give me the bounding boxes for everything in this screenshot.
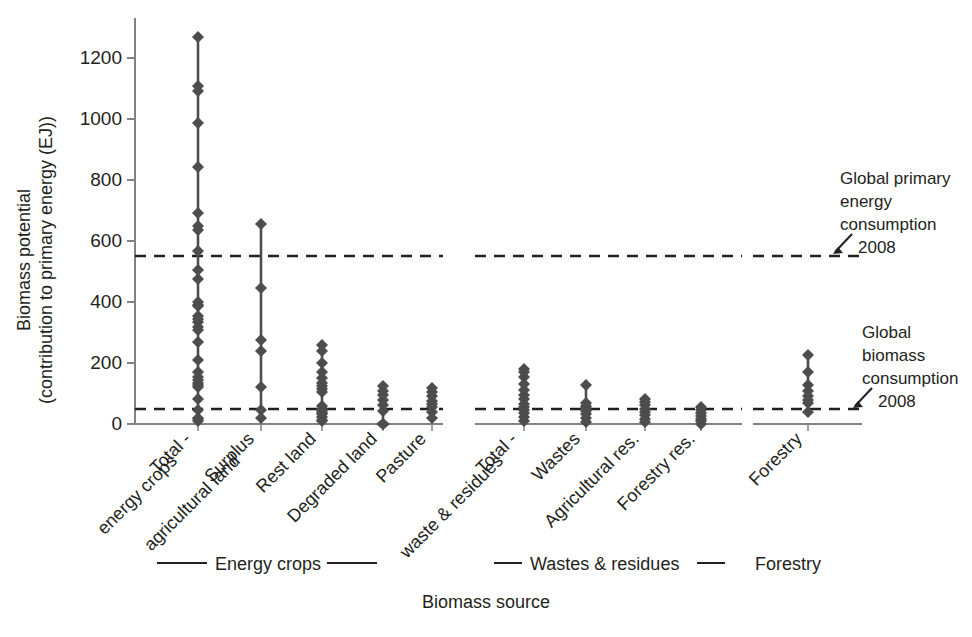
primary-energy-arrow-icon bbox=[833, 234, 852, 254]
x-axis-forestry bbox=[753, 424, 862, 431]
group-label-wastes-residues: Wastes & residues bbox=[494, 554, 725, 574]
y-axis-title-line2: (contribution to primary energy (EJ)) bbox=[36, 116, 56, 404]
group-label-energy-crops: Energy crops bbox=[157, 554, 377, 574]
series-total-energy-crops bbox=[192, 31, 204, 427]
group-label-wastes-residues-text: Wastes & residues bbox=[530, 554, 679, 574]
biomass-annotation-line3: consumption bbox=[862, 369, 958, 388]
series-forestry-res bbox=[695, 401, 707, 430]
y-tick-label-600: 600 bbox=[90, 230, 122, 251]
primary-energy-annotation-line1: Global primary bbox=[840, 169, 951, 188]
biomass-annotation-line4: 2008 bbox=[878, 392, 916, 411]
cat-label-forestry: Forestry bbox=[745, 429, 806, 490]
x-category-labels: Total - energy crops Surplus agricultura… bbox=[93, 429, 806, 563]
primary-energy-annotation: Global primary energy consumption 2008 bbox=[833, 169, 951, 257]
chart-figure: Biomass potential (contribution to prima… bbox=[0, 0, 972, 637]
primary-energy-annotation-line3: consumption bbox=[840, 215, 936, 234]
y-axis bbox=[127, 18, 135, 424]
series-rest-land bbox=[316, 339, 328, 427]
cat-label-wastes: Wastes bbox=[528, 429, 584, 485]
series-forestry bbox=[802, 349, 814, 418]
x-axis-title: Biomass source bbox=[422, 592, 550, 612]
biomass-annotation-line2: biomass bbox=[862, 346, 925, 365]
group-label-forestry: Forestry bbox=[755, 554, 821, 574]
y-tick-label-800: 800 bbox=[90, 169, 122, 190]
y-tick-label-1200: 1200 bbox=[80, 47, 122, 68]
series-wastes bbox=[580, 379, 592, 428]
y-tick-label-1000: 1000 bbox=[80, 108, 122, 129]
cat-label-total-waste-line2: waste & residues bbox=[395, 451, 507, 563]
series-surplus-agricultural-land bbox=[255, 218, 267, 424]
y-tick-labels: 0 200 400 600 800 1000 1200 bbox=[80, 47, 122, 434]
series-total-waste-residues bbox=[518, 363, 530, 427]
cat-label-pasture: Pasture bbox=[372, 429, 430, 487]
series-agricultural-res bbox=[639, 393, 651, 428]
group-label-energy-crops-text: Energy crops bbox=[215, 554, 321, 574]
y-axis-title: Biomass potential (contribution to prima… bbox=[14, 116, 56, 404]
group-label-forestry-text: Forestry bbox=[755, 554, 821, 574]
y-tick-label-400: 400 bbox=[90, 291, 122, 312]
primary-energy-annotation-line2: energy bbox=[840, 192, 892, 211]
y-tick-label-0: 0 bbox=[111, 413, 122, 434]
biomass-arrow-icon bbox=[853, 388, 872, 408]
y-axis-title-line1: Biomass potential bbox=[14, 189, 34, 331]
biomass-annotation-line1: Global bbox=[862, 323, 911, 342]
y-tick-label-200: 200 bbox=[90, 352, 122, 373]
series-pasture bbox=[426, 382, 438, 424]
primary-energy-annotation-line4: 2008 bbox=[858, 238, 896, 257]
biomass-annotation: Global biomass consumption 2008 bbox=[853, 323, 958, 411]
series-degraded-land bbox=[376, 380, 390, 430]
chart-canvas: Biomass potential (contribution to prima… bbox=[0, 0, 972, 637]
